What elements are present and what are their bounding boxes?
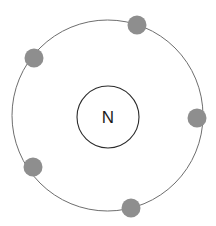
atom-diagram-canvas: N: [0, 0, 216, 226]
electron-upper-left: [25, 49, 44, 68]
electron-bottom: [122, 199, 141, 218]
nucleus-label: N: [102, 108, 114, 127]
electron-right: [188, 109, 207, 128]
electron-top: [128, 16, 147, 35]
nucleus-group: N: [77, 86, 139, 148]
electron-lower-left: [24, 158, 43, 177]
bohr-atom-diagram: N: [0, 0, 216, 226]
